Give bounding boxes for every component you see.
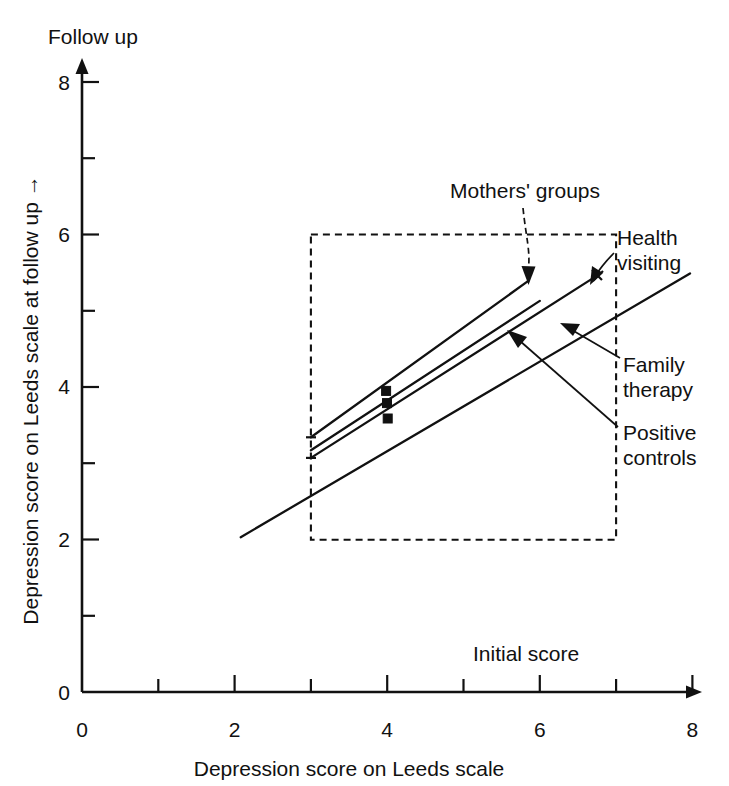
- y-tick-label-8: 8: [58, 71, 70, 94]
- x-tick-label-0: 0: [76, 718, 88, 741]
- y-tick-label-2: 2: [58, 528, 70, 551]
- annotation-label-positive-controls-line2: controls: [623, 446, 697, 469]
- x-axis-title: Depression score on Leeds scale: [194, 757, 505, 780]
- arrowhead-mothers-groups: [522, 266, 536, 285]
- regression-line-health-visiting: [311, 276, 597, 458]
- data-point-marker: [383, 414, 392, 423]
- line-end-caps: [306, 270, 603, 458]
- x-tick-label-4: 4: [381, 718, 393, 741]
- y-tick-label-6: 6: [58, 223, 70, 246]
- leader-mothers-groups: [522, 208, 536, 285]
- x-axis-tick-labels: 0 2 4 6 8: [76, 718, 698, 741]
- annotation-label-family-therapy-line1: Family: [623, 353, 685, 376]
- follow-up-corner-label: Follow up: [48, 25, 138, 48]
- data-point-markers: [382, 386, 393, 423]
- leader-health-visiting: [590, 253, 614, 285]
- x-tick-label-6: 6: [534, 718, 546, 741]
- x-axis: [82, 686, 702, 699]
- annotation-label-family-therapy: Family therapy: [623, 353, 694, 401]
- y-tick-label-4: 4: [58, 375, 70, 398]
- highlight-box: [311, 235, 616, 540]
- arrowhead-family-therapy: [560, 323, 580, 336]
- regression-line-mothers-groups: [311, 281, 528, 437]
- x-tick-label-2: 2: [229, 718, 241, 741]
- leader-family-therapy: [560, 323, 620, 358]
- x-tick-label-8: 8: [687, 718, 699, 741]
- chart-svg: 0 2 4 6 8 0 2 4 6 8 Follow up Depression…: [0, 0, 729, 786]
- data-point-marker: [382, 386, 391, 395]
- y-tick-label-0: 0: [58, 681, 70, 704]
- y-axis-arrowhead: [76, 58, 89, 74]
- annotation-label-health-visiting: Health visiting: [617, 226, 681, 274]
- annotation-label-positive-controls: Positive controls: [623, 421, 697, 469]
- figure-container: 0 2 4 6 8 0 2 4 6 8 Follow up Depression…: [0, 0, 729, 786]
- regression-line-family-therapy: [241, 273, 690, 537]
- annotation-label-health-visiting-line2: visiting: [617, 251, 681, 274]
- y-axis-tick-labels: 0 2 4 6 8: [58, 71, 70, 704]
- annotation-label-positive-controls-line1: Positive: [623, 421, 697, 444]
- annotation-label-health-visiting-line1: Health: [617, 226, 678, 249]
- y-axis: [76, 58, 89, 692]
- annotation-label-family-therapy-line2: therapy: [623, 378, 694, 401]
- x-axis-arrowhead: [686, 686, 702, 699]
- data-point-marker: [383, 399, 392, 408]
- x-axis-inline-label: Initial score: [473, 642, 579, 665]
- y-axis-title: Depression score on Leeds scale at follo…: [19, 175, 42, 624]
- annotation-label-mothers-groups: Mothers' groups: [450, 179, 600, 202]
- leader-positive-controls: [507, 330, 618, 427]
